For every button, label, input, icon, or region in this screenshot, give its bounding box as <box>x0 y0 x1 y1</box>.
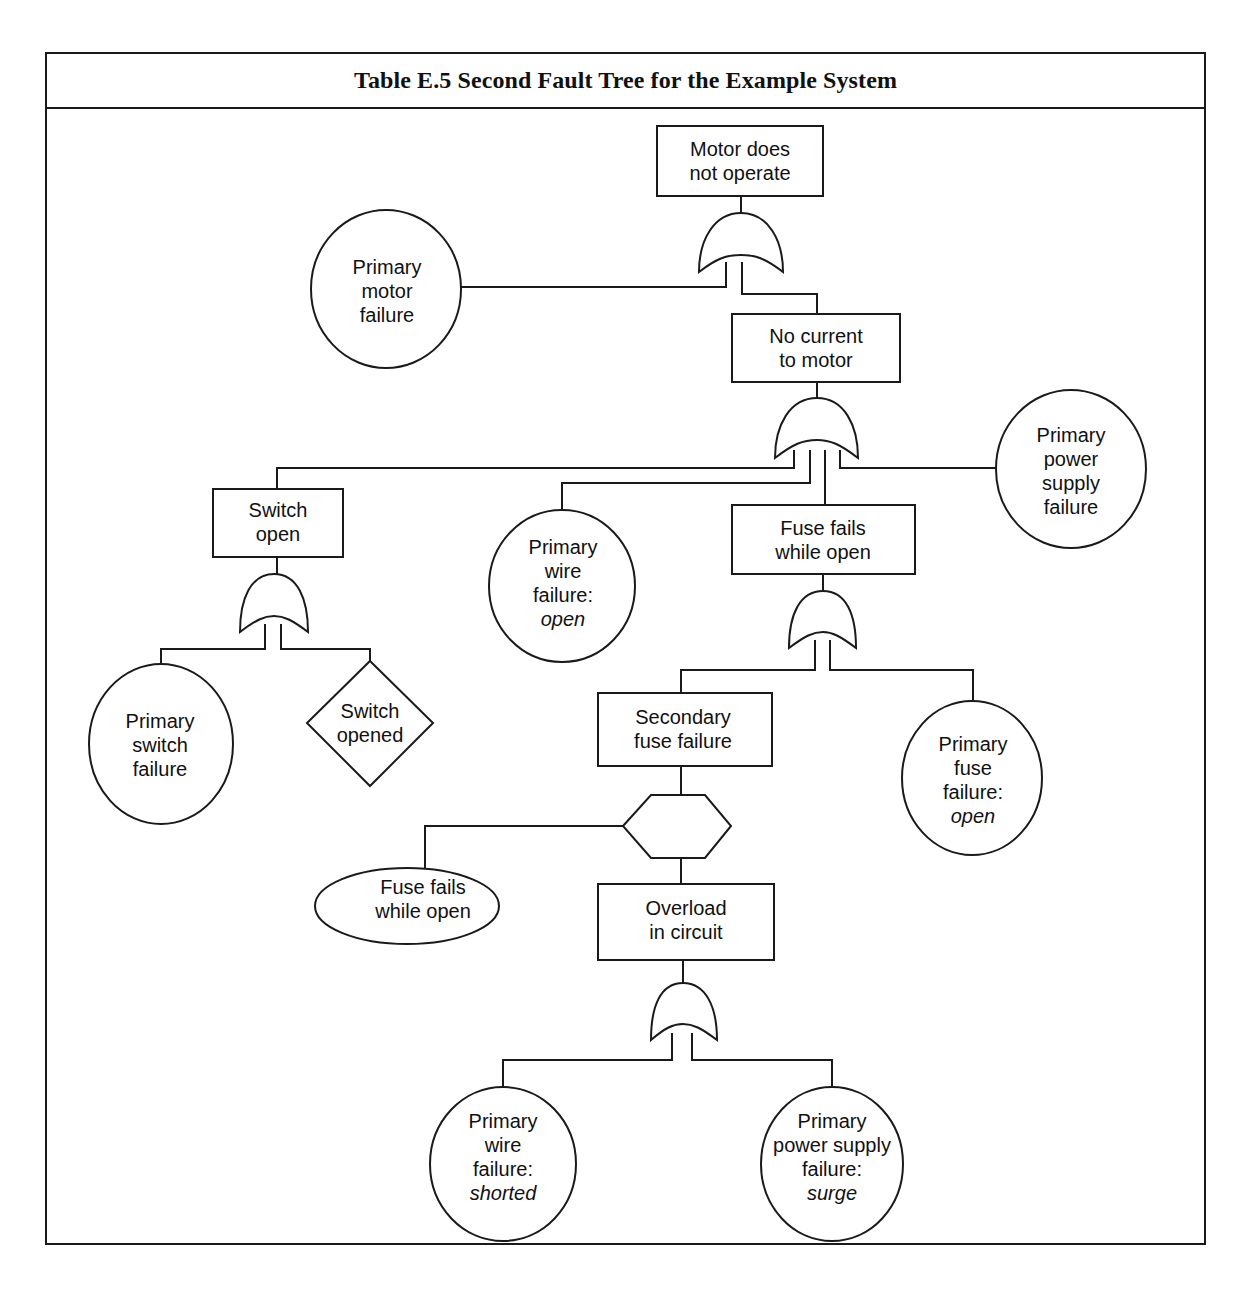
node-label: Primary <box>939 733 1008 755</box>
node-label: Primary <box>469 1110 538 1132</box>
or-gate-3 <box>789 591 856 648</box>
node-primary-wire-failure-shorted[interactable]: Primary wire failure: shorted <box>430 1087 576 1241</box>
node-label-italic: open <box>951 805 996 827</box>
node-label: Fuse fails <box>780 517 866 539</box>
node-label: switch <box>132 734 188 756</box>
node-label: failure <box>360 304 414 326</box>
or-gate-5 <box>651 983 717 1040</box>
node-primary-power-supply-failure-surge[interactable]: Primary power supply failure: surge <box>761 1087 903 1241</box>
node-label: motor <box>361 280 412 302</box>
node-label: Switch <box>249 499 308 521</box>
node-label: Fuse fails <box>380 876 466 898</box>
node-label: failure <box>1044 496 1098 518</box>
node-primary-switch-failure[interactable]: Primary switch failure <box>89 664 233 824</box>
node-label: fuse <box>954 757 992 779</box>
node-label: Secondary <box>635 706 731 728</box>
node-label: not operate <box>689 162 790 184</box>
node-secondary-fuse-failure[interactable]: Secondary fuse failure <box>598 693 772 766</box>
node-label-italic: shorted <box>470 1182 538 1204</box>
node-label: wire <box>544 560 582 582</box>
node-label: opened <box>337 724 404 746</box>
node-label: failure <box>133 758 187 780</box>
node-switch-opened[interactable]: Switch opened <box>307 661 433 786</box>
node-inhibit-condition[interactable]: Fuse fails while open <box>315 868 499 944</box>
fault-tree-diagram: Motor does not operate No current to mot… <box>0 0 1250 1292</box>
node-switch-open[interactable]: Switch open <box>213 489 343 557</box>
node-label: open <box>256 523 301 545</box>
node-primary-power-supply-failure[interactable]: Primary power supply failure <box>996 390 1146 548</box>
node-label: fuse failure <box>634 730 732 752</box>
node-label: power supply <box>773 1134 891 1156</box>
node-label: failure: <box>473 1158 533 1180</box>
node-label: in circuit <box>649 921 723 943</box>
node-label: Primary <box>126 710 195 732</box>
node-label: Primary <box>1037 424 1106 446</box>
node-label: to motor <box>779 349 853 371</box>
node-label: supply <box>1042 472 1100 494</box>
node-label: wire <box>484 1134 522 1156</box>
node-primary-fuse-failure-open[interactable]: Primary fuse failure: open <box>902 701 1042 855</box>
node-no-current-to-motor[interactable]: No current to motor <box>732 314 900 382</box>
node-label: while open <box>774 541 871 563</box>
node-label-italic: surge <box>807 1182 857 1204</box>
node-label: Primary <box>529 536 598 558</box>
inhibit-gate-hexagon <box>623 795 731 858</box>
node-fuse-fails-while-open[interactable]: Fuse fails while open <box>732 505 915 574</box>
node-label: Primary <box>353 256 422 278</box>
node-label: Primary <box>798 1110 867 1132</box>
node-label: failure: <box>802 1158 862 1180</box>
node-label: power <box>1044 448 1099 470</box>
node-label: Overload <box>645 897 726 919</box>
node-label-italic: open <box>541 608 586 630</box>
or-gate-2 <box>775 398 858 458</box>
node-primary-wire-failure-open[interactable]: Primary wire failure: open <box>489 510 635 662</box>
or-gate-4 <box>240 574 308 632</box>
node-overload-in-circuit[interactable]: Overload in circuit <box>598 884 774 960</box>
node-label: No current <box>769 325 863 347</box>
node-primary-motor-failure[interactable]: Primary motor failure <box>311 210 461 368</box>
node-label: Motor does <box>690 138 790 160</box>
node-label: Switch <box>341 700 400 722</box>
node-label: failure: <box>533 584 593 606</box>
node-label: while open <box>374 900 471 922</box>
node-top-event[interactable]: Motor does not operate <box>657 126 823 196</box>
node-label: failure: <box>943 781 1003 803</box>
